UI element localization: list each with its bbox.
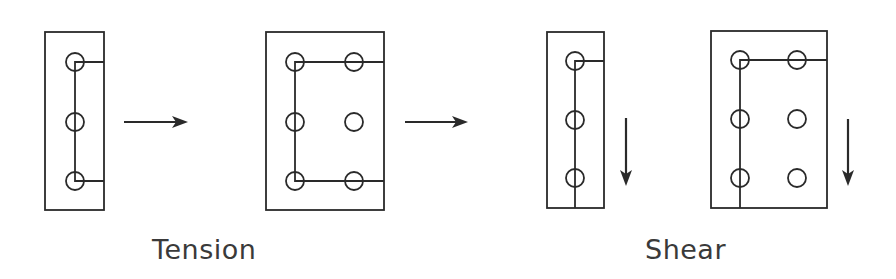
arrow-right-icon bbox=[124, 116, 188, 128]
bolt-group-diagram bbox=[0, 0, 896, 279]
bolt-hole-icon bbox=[788, 110, 806, 128]
load-path-connector bbox=[740, 60, 827, 208]
tension-double-column-panel bbox=[266, 32, 384, 210]
shear-double-column-panel bbox=[711, 31, 827, 208]
bolt-hole-icon bbox=[788, 169, 806, 187]
plate-outline bbox=[266, 32, 384, 210]
load-path-connector bbox=[295, 62, 384, 181]
shear-caption: Shear bbox=[645, 236, 726, 263]
arrow-right-icon bbox=[405, 116, 468, 128]
shear-single-column-panel bbox=[547, 32, 604, 208]
arrow-down-icon bbox=[842, 119, 854, 186]
tension-single-column-panel bbox=[45, 32, 104, 210]
bolt-hole-icon bbox=[345, 113, 363, 131]
arrow-down-icon bbox=[620, 118, 632, 186]
load-path-connector bbox=[75, 62, 104, 181]
tension-caption: Tension bbox=[152, 236, 256, 263]
plate-outline bbox=[711, 31, 827, 208]
